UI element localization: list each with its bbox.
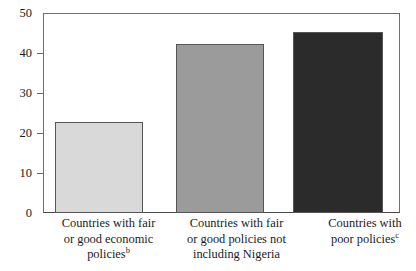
- category-label-3-line-1: Countries with: [285, 216, 416, 232]
- y-tick-label-50: 50: [20, 7, 33, 20]
- bar-poor-policies: [293, 32, 383, 213]
- y-tick-label-20: 20: [20, 127, 33, 140]
- category-label-1-footnote: b: [126, 246, 130, 255]
- category-label-2-line-3: including Nigeria: [149, 247, 324, 263]
- bar-fair-or-good-policies-excluding-nigeria: [176, 44, 264, 213]
- y-tick-label-30: 30: [20, 87, 33, 100]
- bar-fair-or-good-economic-policies: [55, 122, 143, 213]
- category-label-3-footnote: c: [395, 230, 399, 239]
- x-axis-category-labels: Countries with fair or good economic pol…: [43, 216, 400, 271]
- bar-chart: 50 40 30 20 10 0 Countries with fair or …: [0, 0, 416, 271]
- y-tick-label-10: 10: [20, 167, 33, 180]
- category-label-3-line-2: poor policiesc: [285, 232, 416, 248]
- bars-layer: [43, 13, 400, 213]
- category-label-3: Countries with poor policiesc: [285, 216, 416, 247]
- y-tick-label-40: 40: [20, 47, 33, 60]
